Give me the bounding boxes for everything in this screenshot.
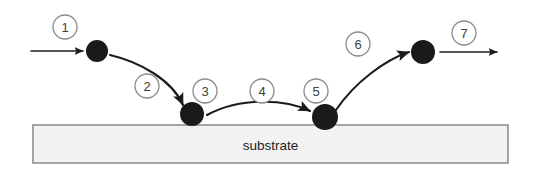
diagram-canvas: substrate 1234567 xyxy=(0,0,537,174)
desorbed-adatom xyxy=(411,40,435,64)
diffused-adatom xyxy=(312,104,338,130)
step-badge-1: 1 xyxy=(53,15,77,39)
step-badges: 1234567 xyxy=(53,15,476,103)
step-badge-4: 4 xyxy=(250,79,274,103)
adsorbed-adatom xyxy=(180,102,204,126)
step-badge-5-label: 5 xyxy=(312,84,319,99)
step-badge-5: 5 xyxy=(304,79,328,103)
step-badge-7-label: 7 xyxy=(460,26,467,41)
step-badge-2-label: 2 xyxy=(143,79,150,94)
step-badge-4-label: 4 xyxy=(258,84,265,99)
step-badge-3-label: 3 xyxy=(201,84,208,99)
step-badge-7: 7 xyxy=(452,21,476,45)
substrate-label: substrate xyxy=(243,138,299,153)
step-badge-6: 6 xyxy=(346,32,370,56)
arrow-surface-diffusion xyxy=(207,102,310,115)
substrate-block: substrate xyxy=(33,125,508,163)
step-badge-6-label: 6 xyxy=(354,37,361,52)
incoming-adatom xyxy=(86,40,108,62)
step-badge-3: 3 xyxy=(193,79,217,103)
step-badge-1-label: 1 xyxy=(61,20,68,35)
thin-film-growth-diagram: substrate 1234567 xyxy=(0,0,537,174)
step-badge-2: 2 xyxy=(135,74,159,98)
arrow-desorption xyxy=(336,52,409,110)
